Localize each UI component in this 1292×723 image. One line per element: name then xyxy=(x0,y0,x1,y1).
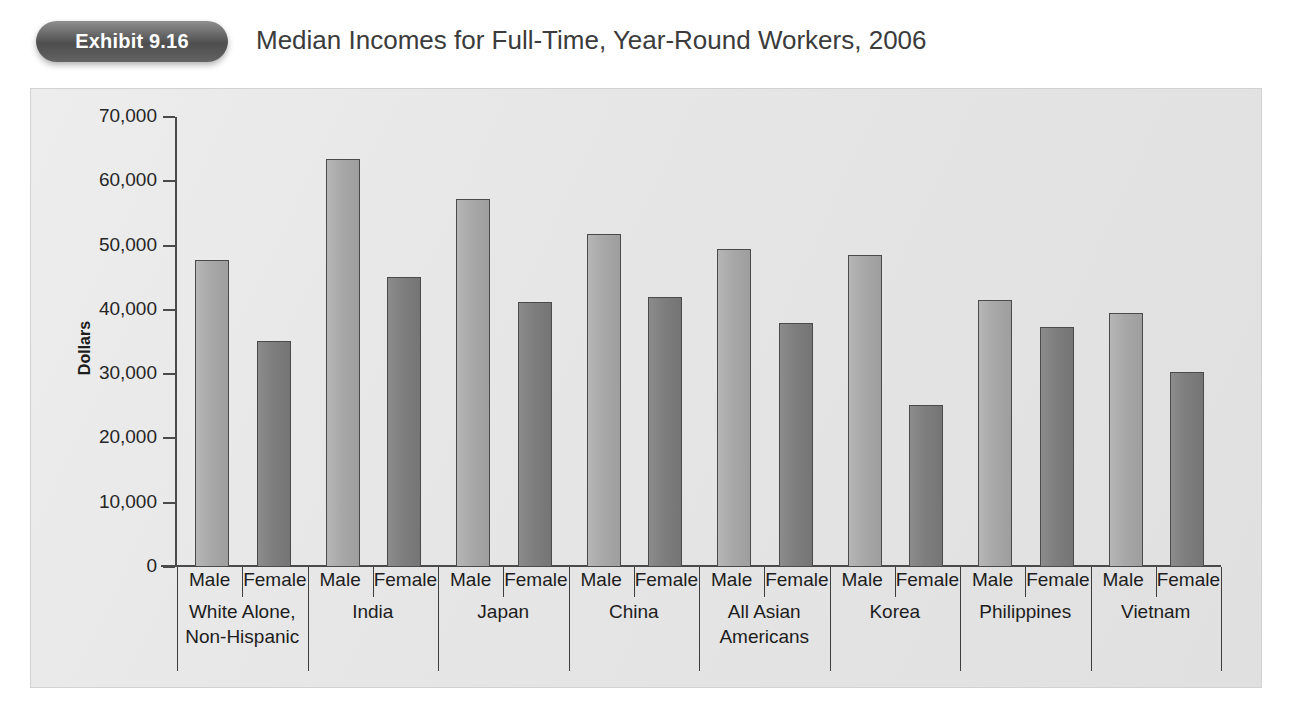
y-axis-tick-label: 0 xyxy=(146,555,157,577)
y-axis-tick-label: 40,000 xyxy=(99,298,157,320)
bar-female xyxy=(1040,327,1074,567)
x-axis-gender-label: Female xyxy=(634,569,699,591)
x-axis-gender-label: Male xyxy=(960,569,1025,591)
x-axis-gender-label: Female xyxy=(373,569,438,591)
bar-male xyxy=(326,159,360,567)
x-axis-gender-label: Male xyxy=(177,569,242,591)
x-axis-gender-label: Male xyxy=(569,569,634,591)
x-axis-group-label: India xyxy=(308,599,439,624)
y-axis-title: Dollars xyxy=(76,288,94,408)
bar-female xyxy=(387,277,421,567)
bar-male xyxy=(717,249,751,567)
x-axis-group-label-line: White Alone, xyxy=(177,599,308,624)
x-axis-gender-label: Female xyxy=(242,569,307,591)
bar-female xyxy=(518,302,552,567)
x-axis-gender-label: Female xyxy=(503,569,568,591)
bar-female xyxy=(648,297,682,567)
x-axis-gender-label: Male xyxy=(1091,569,1156,591)
exhibit-badge-label: Exhibit 9.16 xyxy=(75,30,189,53)
bar-female xyxy=(257,341,291,567)
x-axis-group-label-line: All Asian xyxy=(699,599,830,624)
x-axis-group-label: Vietnam xyxy=(1091,599,1222,624)
bar-group-container xyxy=(177,117,1221,567)
y-axis-tick-label: 30,000 xyxy=(99,362,157,384)
y-axis-tick xyxy=(163,437,175,439)
chart-panel: Dollars 70,00060,00050,00040,00030,00020… xyxy=(30,88,1262,688)
x-axis-group-label: China xyxy=(569,599,700,624)
y-axis-tick xyxy=(163,566,175,568)
x-axis-label-band: MaleFemaleWhite Alone,Non-HispanicMaleFe… xyxy=(177,567,1221,671)
y-axis-tick xyxy=(163,502,175,504)
bar-male xyxy=(978,300,1012,567)
page-title: Median Incomes for Full-Time, Year-Round… xyxy=(256,25,927,56)
bar-male xyxy=(456,199,490,567)
x-axis-group-label: All AsianAmericans xyxy=(699,599,830,649)
x-axis-gender-label: Male xyxy=(308,569,373,591)
x-axis-gender-label: Female xyxy=(1156,569,1221,591)
bar-male xyxy=(1109,313,1143,567)
y-axis-tick-label: 70,000 xyxy=(99,105,157,127)
y-axis-tick-label: 10,000 xyxy=(99,491,157,513)
exhibit-header: Exhibit 9.16 Median Incomes for Full-Tim… xyxy=(0,0,1292,88)
bar-chart-plot: Dollars 70,00060,00050,00040,00030,00020… xyxy=(31,89,1263,689)
x-axis-group-label-line: Vietnam xyxy=(1091,599,1222,624)
x-axis-group-label-line: Philippines xyxy=(960,599,1091,624)
x-axis-group-separator xyxy=(1221,567,1222,671)
y-axis-tick xyxy=(163,309,175,311)
x-axis-group-label-line: Non-Hispanic xyxy=(177,624,308,649)
x-axis-group-label-line: Korea xyxy=(830,599,961,624)
x-axis-gender-label: Male xyxy=(438,569,503,591)
bar-male xyxy=(587,234,621,567)
x-axis-gender-label: Female xyxy=(1025,569,1090,591)
x-axis-gender-label: Male xyxy=(699,569,764,591)
bar-female xyxy=(779,323,813,567)
bar-male xyxy=(195,260,229,567)
x-axis-group-label: Korea xyxy=(830,599,961,624)
x-axis-group-label-line: Americans xyxy=(699,624,830,649)
bar-female xyxy=(1170,372,1204,567)
x-axis-group-label: Japan xyxy=(438,599,569,624)
y-axis-tick xyxy=(163,180,175,182)
x-axis-group-label-line: Japan xyxy=(438,599,569,624)
bar-male xyxy=(848,255,882,567)
x-axis-gender-label: Male xyxy=(830,569,895,591)
y-axis-tick-label: 50,000 xyxy=(99,234,157,256)
bar-female xyxy=(909,405,943,567)
y-axis-tick-label: 60,000 xyxy=(99,169,157,191)
exhibit-page: Exhibit 9.16 Median Incomes for Full-Tim… xyxy=(0,0,1292,723)
x-axis-group-label-line: China xyxy=(569,599,700,624)
y-axis-tick xyxy=(163,245,175,247)
y-axis-tick xyxy=(163,116,175,118)
y-axis-tick xyxy=(163,373,175,375)
x-axis-group-label: Philippines xyxy=(960,599,1091,624)
x-axis-gender-label: Female xyxy=(764,569,829,591)
x-axis-group-label: White Alone,Non-Hispanic xyxy=(177,599,308,649)
x-axis-group-label-line: India xyxy=(308,599,439,624)
x-axis-gender-label: Female xyxy=(895,569,960,591)
exhibit-badge: Exhibit 9.16 xyxy=(36,21,228,62)
y-axis-tick-label: 20,000 xyxy=(99,426,157,448)
